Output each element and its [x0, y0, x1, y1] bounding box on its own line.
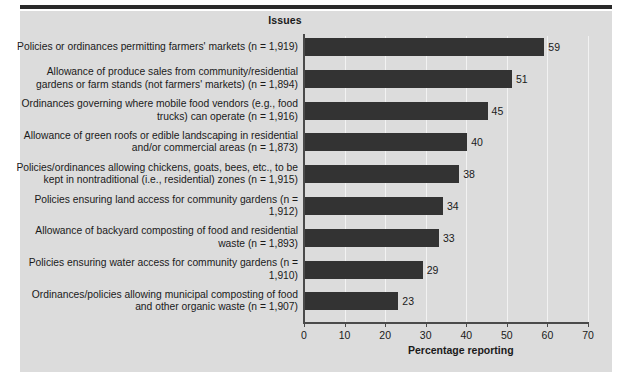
x-tick-label: 60 — [527, 329, 567, 341]
bar-value-label: 29 — [427, 261, 439, 279]
bar — [305, 70, 512, 88]
bar — [305, 133, 467, 151]
category-label: Ordinances governing where mobile food v… — [13, 98, 298, 123]
category-label: Allowance of green roofs or edible lands… — [13, 130, 298, 155]
x-tick-label: 20 — [365, 329, 405, 341]
bar — [305, 38, 544, 56]
bar — [305, 102, 488, 120]
category-label: Allowance of produce sales from communit… — [13, 66, 298, 91]
x-tick-mark — [588, 322, 589, 327]
bar-value-label: 23 — [402, 292, 414, 310]
bar — [305, 229, 439, 247]
x-tick-mark — [385, 322, 386, 327]
category-label: Ordinances/policies allowing municipal c… — [13, 289, 298, 314]
bar-value-label: 51 — [516, 70, 528, 88]
bar — [305, 261, 423, 279]
x-tick-label: 50 — [487, 329, 527, 341]
x-tick-mark — [507, 322, 508, 327]
x-tick-mark — [304, 322, 305, 327]
category-label: Policies/ordinances allowing chickens, g… — [13, 162, 298, 187]
x-tick-label: 70 — [568, 329, 608, 341]
x-tick-label: 10 — [325, 329, 365, 341]
bar — [305, 197, 443, 215]
bar-value-label: 34 — [447, 197, 459, 215]
bar-value-label: 40 — [471, 133, 483, 151]
x-tick-label: 30 — [406, 329, 446, 341]
x-tick-label: 0 — [284, 329, 324, 341]
bar — [305, 292, 398, 310]
category-label: Policies or ordinances permitting farmer… — [13, 41, 298, 54]
x-tick-label: 40 — [446, 329, 486, 341]
gridline — [588, 36, 589, 322]
x-tick-mark — [466, 322, 467, 327]
category-label: Policies ensuring water access for commu… — [13, 257, 298, 282]
bar-value-label: 45 — [492, 102, 504, 120]
bar-value-label: 59 — [548, 38, 560, 56]
bar — [305, 165, 459, 183]
x-tick-mark — [426, 322, 427, 327]
bar-value-label: 38 — [463, 165, 475, 183]
category-label: Allowance of backyard composting of food… — [13, 225, 298, 250]
x-axis-line — [303, 322, 589, 324]
x-tick-mark — [345, 322, 346, 327]
category-label: Policies ensuring land access for commun… — [13, 194, 298, 219]
header-rule — [20, 5, 612, 9]
chart-figure: Issues 010203040506070 Policies or ordin… — [0, 0, 623, 386]
x-axis-title: Percentage reporting — [408, 344, 514, 356]
chart-title: Issues — [150, 14, 420, 26]
bar-value-label: 33 — [443, 229, 455, 247]
x-tick-mark — [547, 322, 548, 327]
gridline — [547, 36, 548, 322]
